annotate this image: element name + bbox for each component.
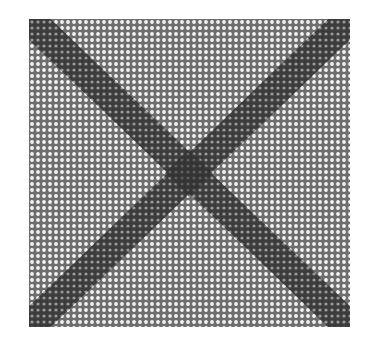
halftone-x-pattern bbox=[29, 19, 350, 327]
halftone-grid bbox=[29, 19, 350, 327]
